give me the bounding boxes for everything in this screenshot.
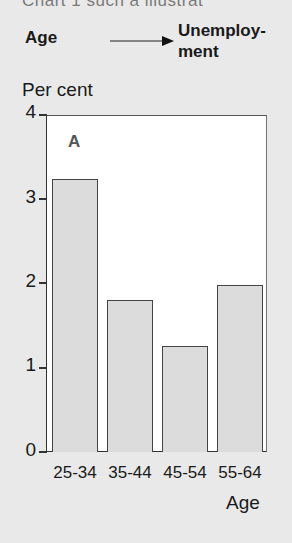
effect-variable-label: Unemploy- ment [178, 20, 266, 62]
panel-letter: A [68, 132, 80, 152]
x-tick-label-45-54: 45-54 [157, 463, 213, 483]
right-arrow-icon [110, 35, 174, 47]
cause-variable-label: Age [25, 28, 57, 48]
x-tick-label-25-34: 25-34 [47, 463, 103, 483]
y-tick-label-1: 1 [22, 354, 36, 376]
bar-45-54 [162, 346, 208, 452]
effect-variable-line2: ment [178, 41, 266, 62]
x-axis-label: Age [226, 492, 260, 514]
x-tick-label-55-64: 55-64 [212, 463, 268, 483]
x-tick-label-35-44: 35-44 [102, 463, 158, 483]
y-tick-label-4: 4 [22, 101, 36, 123]
effect-variable-line1: Unemploy- [178, 20, 266, 41]
bar-55-64 [217, 285, 263, 452]
bar-25-34 [52, 179, 98, 452]
cropped-caption-text: Chart 1 such a illustrat [22, 0, 203, 11]
y-axis-label: Per cent [22, 79, 93, 101]
y-tick-label-2: 2 [22, 270, 36, 292]
bar-35-44 [107, 300, 153, 452]
y-tick-label-3: 3 [22, 186, 36, 208]
y-tick-label-0: 0 [22, 439, 36, 461]
